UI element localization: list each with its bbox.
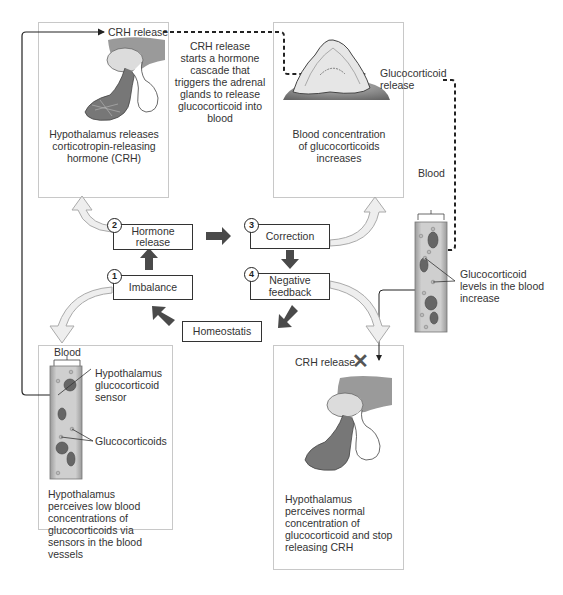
block-arrow-right [206,227,231,245]
step-number-3: 3 [244,218,259,233]
pituitary-illustration-bottom [305,376,392,470]
block-arrow-up-left [152,306,175,326]
block-arrow-up [140,248,158,270]
glucocorticoid-release-label: Glucocorticoid release [380,67,447,91]
sensor-label: Hypothalamus glucocorticoid sensor [95,367,162,403]
step-number-4: 4 [244,267,259,282]
step-box-hormone-release: Hormone release [113,224,193,250]
crh-release-label-top: CRH release [108,26,168,38]
cascade-note: CRH release starts a hormone cascade tha… [170,40,270,124]
blood-vessel-left [50,356,93,479]
glucocorticoids-label: Glucocorticoids [95,435,167,447]
curved-arrow-correction-to-topright [330,197,386,246]
step-box-imbalance: Imbalance [113,275,193,300]
curved-arrow-imbalance-to-bottomleft [50,287,112,343]
x-icon: ✕ [352,351,369,371]
homeostasis-box: Homeostatis [182,321,262,342]
adrenal-gland-illustration [283,40,390,100]
block-arrow-down-left [278,305,298,328]
step-number-1: 1 [107,269,122,284]
pituitary-illustration-top [85,37,165,120]
glucocorticoid-levels-annotation: Glucocorticoid levels in the blood incre… [460,268,544,304]
bottom-right-caption: Hypothalamus perceives normal concentrat… [285,493,403,553]
top-left-caption: Hypothalamus releases corticotropin-rele… [40,128,168,164]
curved-arrow-hormone-to-topleft [72,196,112,232]
bottom-left-caption: Hypothalamus perceives low blood concent… [48,488,170,560]
blood-label-left: Blood [54,346,81,358]
block-arrow-down [281,250,299,269]
blood-label-right: Blood [418,167,445,179]
feedback-line-right [379,290,417,360]
top-right-caption: Blood concentration of glucocorticoids i… [275,128,403,164]
step-number-2: 2 [107,218,122,233]
blood-vessel-right [415,210,455,332]
crh-release-label-bottom: CRH release [295,356,355,368]
step-box-negative-feedback: Negative feedback [250,273,330,300]
step-box-correction: Correction [250,224,330,249]
